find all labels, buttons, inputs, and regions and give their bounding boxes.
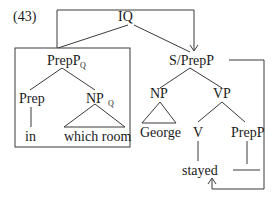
node-prep: Prep xyxy=(19,91,45,106)
triangle-npq xyxy=(64,104,125,127)
node-v: V xyxy=(193,125,203,140)
node-vp: VP xyxy=(213,86,231,101)
leaf-in: in xyxy=(25,129,36,144)
node-iq: IQ xyxy=(118,9,133,24)
branch-iq-sprepp xyxy=(134,25,190,52)
branch-preppq-prep xyxy=(30,68,62,90)
branch-iq-preppq xyxy=(58,25,128,48)
leaf-george: George xyxy=(140,125,181,140)
branch-vp-v xyxy=(198,102,222,122)
node-np: NP xyxy=(150,86,168,101)
svg-text:PrepP: PrepP xyxy=(47,53,81,68)
triangle-np xyxy=(142,102,176,123)
node-preppq: PrepP Q xyxy=(47,53,86,70)
branch-vp-prepp xyxy=(222,102,245,122)
leaf-which-room: which room xyxy=(64,129,131,144)
node-s-prepp: S/PrepP xyxy=(169,53,214,68)
branch-preppq-npq xyxy=(62,68,95,90)
svg-text:Q: Q xyxy=(80,61,86,70)
syntax-tree-diagram: (43) IQ PrepP Q Prep in NP Q which room … xyxy=(0,0,280,200)
branch-sprepp-np xyxy=(160,68,190,88)
leaf-stayed: stayed xyxy=(182,163,218,178)
node-prepp: PrepP xyxy=(231,125,265,140)
svg-text:Q: Q xyxy=(108,99,114,108)
example-number: (43) xyxy=(13,9,37,25)
branch-sprepp-vp xyxy=(190,68,222,88)
node-npq: NP Q xyxy=(86,91,114,108)
